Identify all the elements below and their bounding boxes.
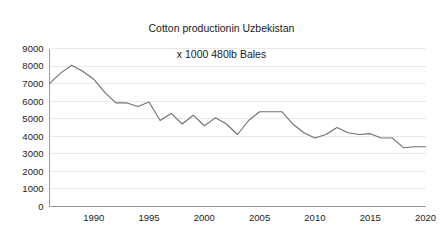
x-axis-tick-label: 2005 [249,212,270,223]
y-axis-tick-labels: 0100020003000400050006000700080009000 [22,43,43,212]
x-axis-tick-label: 1990 [83,212,104,223]
y-axis-tick-label: 3000 [22,148,43,159]
y-axis-tick-label: 5000 [22,113,43,124]
x-axis-tick-labels: 1990199520002005201020152020 [83,212,436,223]
chart-container: Cotton productionin Uzbekistan x 1000 48… [0,0,443,235]
line-chart-plot: 0100020003000400050006000700080009000 19… [0,0,443,235]
x-axis-tick-label: 2015 [360,212,381,223]
y-axis-tick-label: 8000 [22,60,43,71]
y-axis-tick-label: 9000 [22,43,43,54]
x-axis-tick-label: 2020 [415,212,436,223]
y-axis-tick-label: 2000 [22,166,43,177]
gridlines [50,49,426,189]
y-axis-tick-label: 1000 [22,183,43,194]
cotton-production-series-line [50,65,426,148]
y-axis-tick-label: 7000 [22,78,43,89]
x-axis-tick-label: 2000 [194,212,215,223]
y-axis-tick-label: 6000 [22,96,43,107]
y-axis-tick-label: 0 [38,201,43,212]
y-axis-tick-label: 4000 [22,131,43,142]
x-axis-tick-label: 1995 [138,212,159,223]
x-axis-tick-label: 2010 [304,212,325,223]
